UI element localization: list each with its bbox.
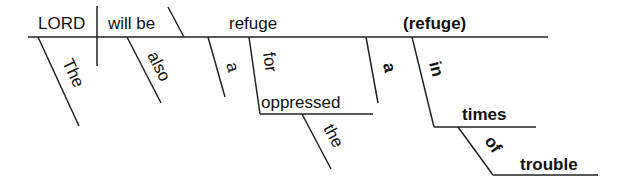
word-a2: a <box>379 61 400 75</box>
word-subject: LORD <box>38 14 85 33</box>
word-predicate-noun: refuge <box>229 14 277 33</box>
word-the: The <box>58 56 88 91</box>
word-verb: will be <box>107 14 155 33</box>
word-in: in <box>425 59 447 78</box>
predicate-slash <box>168 7 184 37</box>
modifier-line-a2 <box>366 37 378 103</box>
word-appositive: (refuge) <box>403 14 466 33</box>
sentence-diagram: LORD will be refuge (refuge) The also a … <box>0 0 625 187</box>
word-trouble: trouble <box>520 155 578 174</box>
prep-line-in <box>412 37 434 127</box>
word-oppressed: oppressed <box>261 93 340 112</box>
word-times: times <box>462 105 506 124</box>
word-a1: a <box>222 60 243 75</box>
word-the2: the <box>319 121 347 151</box>
prep-line-for <box>249 37 260 114</box>
word-of: of <box>481 132 506 156</box>
modifier-line-a1 <box>208 37 225 97</box>
word-for: for <box>259 51 281 74</box>
